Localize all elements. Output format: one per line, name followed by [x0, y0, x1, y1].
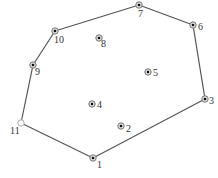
- point-center-dot-icon: [120, 125, 123, 128]
- point-label-4: 4: [97, 99, 102, 110]
- point-label-6: 6: [198, 21, 203, 32]
- point-labels: 1234567891011: [10, 8, 214, 170]
- point-label-7: 7: [138, 8, 143, 19]
- point-label-9: 9: [35, 66, 40, 77]
- point-label-2: 2: [126, 123, 131, 134]
- point-center-dot-icon: [204, 98, 207, 101]
- point-5: [145, 69, 151, 75]
- point-label-5: 5: [153, 67, 158, 78]
- point-center-dot-icon: [138, 4, 141, 7]
- point-4: [89, 101, 95, 107]
- point-2: [118, 123, 124, 129]
- hull-edge-9-11: [21, 65, 33, 123]
- convex-hull-diagram: 1234567891011: [0, 0, 218, 178]
- hull-edge-1-3: [93, 99, 205, 158]
- point-label-3: 3: [209, 95, 214, 106]
- point-6: [190, 22, 196, 28]
- point-center-dot-icon: [192, 24, 195, 27]
- point-center-dot-icon: [91, 103, 94, 106]
- hull-edge-3-6: [193, 25, 205, 99]
- point-1: [90, 155, 96, 161]
- hull-edge-6-7: [139, 5, 193, 25]
- hull-edges: [21, 5, 205, 158]
- point-center-dot-icon: [54, 30, 57, 33]
- hull-edge-10-9: [33, 31, 55, 65]
- points: [18, 2, 208, 161]
- point-center-dot-icon: [147, 71, 150, 74]
- point-center-dot-icon: [32, 64, 35, 67]
- point-3: [202, 96, 208, 102]
- point-label-11: 11: [10, 125, 20, 136]
- point-label-10: 10: [54, 34, 64, 45]
- point-center-dot-icon: [98, 37, 101, 40]
- point-center-dot-icon: [92, 157, 95, 160]
- point-label-1: 1: [97, 159, 102, 170]
- hull-edge-7-10: [55, 5, 139, 31]
- point-label-8: 8: [101, 38, 106, 49]
- hull-edge-11-1: [21, 123, 93, 158]
